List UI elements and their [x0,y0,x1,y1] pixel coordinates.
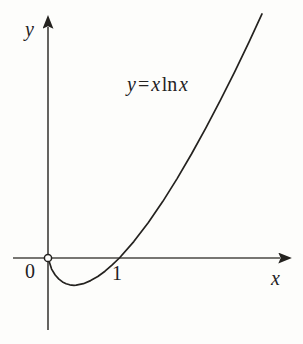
x-axis-label: x [271,268,280,288]
function-curve [48,14,262,285]
origin-label: 0 [25,261,35,281]
plot-canvas [0,0,303,344]
open-circle-marker [44,254,51,261]
curve-equation-annotation: y=x ln x [127,74,188,94]
equation-factor: x [151,73,160,95]
equation-function: ln [162,73,178,95]
y-axis-label: y [25,19,34,39]
equation-argument: x [179,73,188,95]
equation-lhs: y [127,73,136,95]
x-tick-label-1: 1 [112,263,122,283]
function-plot-figure: y x 0 1 y=x ln x [0,0,303,344]
equation-equals: = [136,73,151,95]
